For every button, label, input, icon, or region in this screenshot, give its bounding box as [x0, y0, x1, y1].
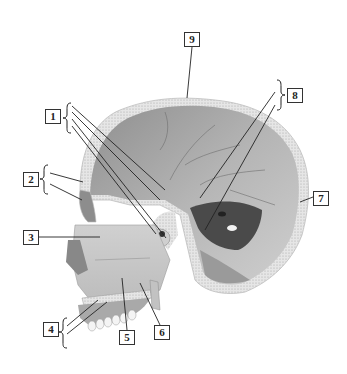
- label-3: 3: [23, 230, 39, 245]
- brace-2: [40, 165, 48, 194]
- label-4: 4: [43, 322, 59, 337]
- brace-4: [59, 318, 67, 348]
- label-6: 6: [154, 325, 170, 340]
- label-8: 8: [287, 88, 303, 103]
- label-1: 1: [45, 109, 61, 124]
- brace-8: [277, 80, 285, 110]
- label-7: 7: [313, 191, 329, 206]
- label-2: 2: [23, 172, 39, 187]
- skull-sagittal-diagram: [0, 0, 347, 374]
- brace-1: [63, 103, 71, 133]
- label-9: 9: [184, 32, 200, 47]
- label-5: 5: [119, 330, 135, 345]
